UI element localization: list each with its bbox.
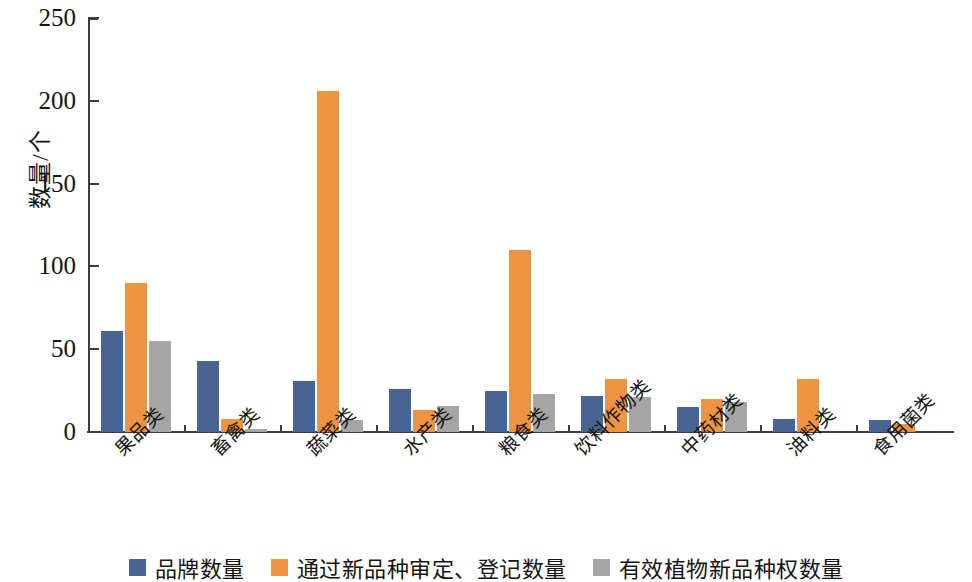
- bar-group-bars: [869, 18, 943, 432]
- x-axis-label-cell: 蔬菜类: [282, 437, 378, 537]
- y-axis-tick-label: 50: [51, 335, 76, 363]
- bar-group-bars: [293, 18, 367, 432]
- plot-area: 050100150200250: [88, 18, 954, 432]
- bar: [197, 361, 219, 432]
- bar-groups: [90, 18, 954, 432]
- x-axis-label-cell: 果品类: [90, 437, 186, 537]
- legend-label: 有效植物新品种权数量: [619, 551, 844, 582]
- legend-label: 品牌数量: [155, 551, 245, 582]
- bar-group-bars: [581, 18, 655, 432]
- x-axis-label-cell: 油料类: [762, 437, 858, 537]
- chart-legend: 品牌数量通过新品种审定、登记数量有效植物新品种权数量: [0, 551, 972, 582]
- x-axis-labels: 果品类畜禽类蔬菜类水产类粮食类饮料作物类中药材类油料类食用菌类: [90, 437, 954, 537]
- x-axis-label-cell: 食用菌类: [858, 437, 954, 537]
- y-axis-tick-label: 150: [39, 170, 77, 198]
- bar-group-bars: [677, 18, 751, 432]
- legend-item[interactable]: 有效植物新品种权数量: [593, 551, 844, 582]
- x-axis-label-cell: 水产类: [378, 437, 474, 537]
- y-axis-tick-label: 100: [39, 252, 77, 280]
- bar-group: [378, 18, 474, 432]
- bar-group: [474, 18, 570, 432]
- bar-group: [762, 18, 858, 432]
- bar-group: [666, 18, 762, 432]
- legend-item[interactable]: 通过新品种审定、登记数量: [271, 551, 567, 582]
- bar-group: [186, 18, 282, 432]
- bar-group-bars: [485, 18, 559, 432]
- legend-item[interactable]: 品牌数量: [129, 551, 245, 582]
- bar: [317, 91, 339, 432]
- legend-label: 通过新品种审定、登记数量: [297, 551, 567, 582]
- bar-group: [858, 18, 954, 432]
- bar-group: [282, 18, 378, 432]
- bar-group-bars: [389, 18, 463, 432]
- legend-swatch-icon: [129, 559, 146, 576]
- x-axis-label-cell: 中药材类: [666, 437, 762, 537]
- legend-swatch-icon: [593, 559, 610, 576]
- bar-group: [570, 18, 666, 432]
- x-axis-label-cell: 饮料作物类: [570, 437, 666, 537]
- bar: [101, 331, 123, 432]
- bar-group-bars: [773, 18, 847, 432]
- y-axis-tick-label: 250: [39, 4, 77, 32]
- legend-swatch-icon: [271, 559, 288, 576]
- bar-group: [90, 18, 186, 432]
- y-axis-tick-label: 0: [64, 418, 77, 446]
- x-axis-label-cell: 畜禽类: [186, 437, 282, 537]
- bar-group-bars: [101, 18, 175, 432]
- bar-group-bars: [197, 18, 271, 432]
- x-axis-label-cell: 粮食类: [474, 437, 570, 537]
- y-axis-tick-label: 200: [39, 87, 77, 115]
- bar-chart: 数量/个 050100150200250 果品类畜禽类蔬菜类水产类粮食类饮料作物…: [0, 0, 972, 582]
